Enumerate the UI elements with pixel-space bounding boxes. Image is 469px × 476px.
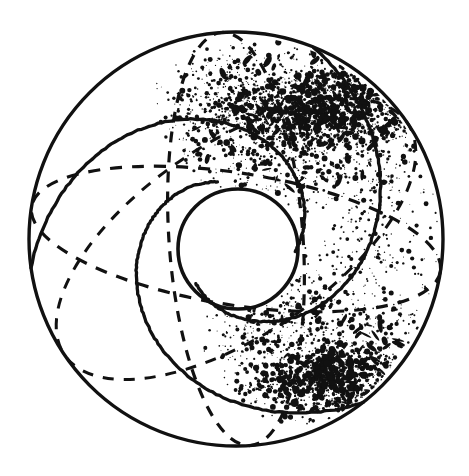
figure-background	[0, 0, 469, 476]
sphere-spiral-diagram	[0, 0, 469, 476]
figure-canvas	[0, 0, 469, 476]
